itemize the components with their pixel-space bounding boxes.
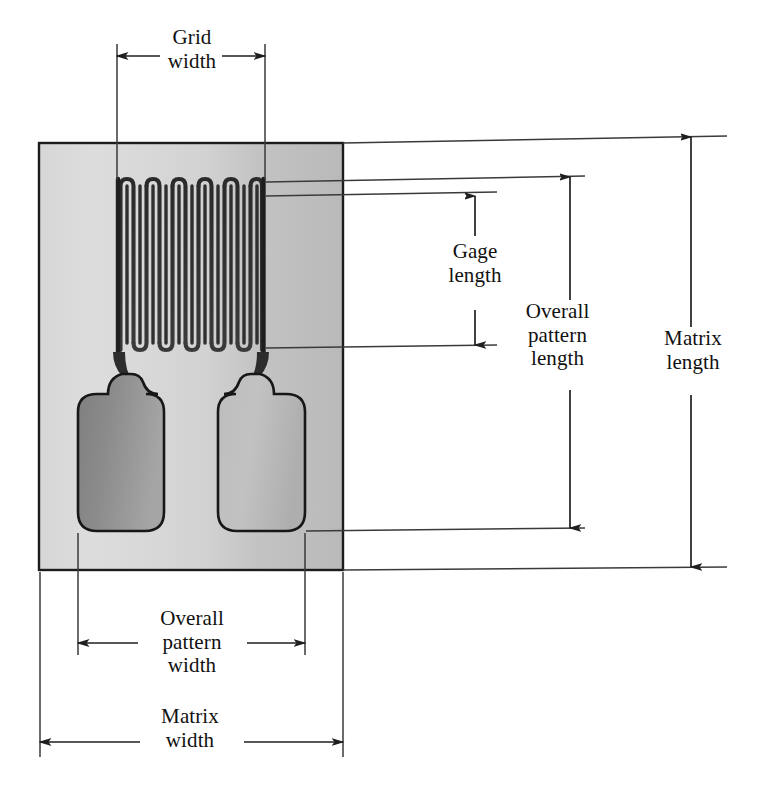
leader-matrix-bottom	[343, 567, 727, 570]
label-overall-pattern-length: Overall pattern length	[500, 300, 615, 371]
label-matrix-length: Matrix length	[637, 327, 749, 374]
leader-pattern-bottom	[306, 528, 585, 531]
strain-gage-diagram	[0, 0, 779, 802]
label-matrix-width: Matrix width	[135, 705, 245, 752]
label-grid-width: Grid width	[137, 26, 247, 73]
solder-tab-right	[218, 374, 305, 531]
label-overall-pattern-width: Overall pattern width	[132, 607, 252, 678]
solder-tab-left	[78, 374, 164, 531]
leader-matrix-top	[343, 136, 727, 143]
label-gage-length: Gage length	[415, 240, 535, 287]
figure-canvas: Grid width Gage length Overall pattern l…	[0, 0, 779, 802]
